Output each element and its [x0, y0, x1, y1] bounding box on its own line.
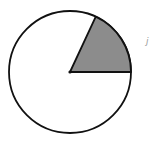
pie-sector-diagram — [0, 0, 156, 146]
center-point — [68, 70, 71, 73]
stray-mark: j — [146, 36, 149, 46]
